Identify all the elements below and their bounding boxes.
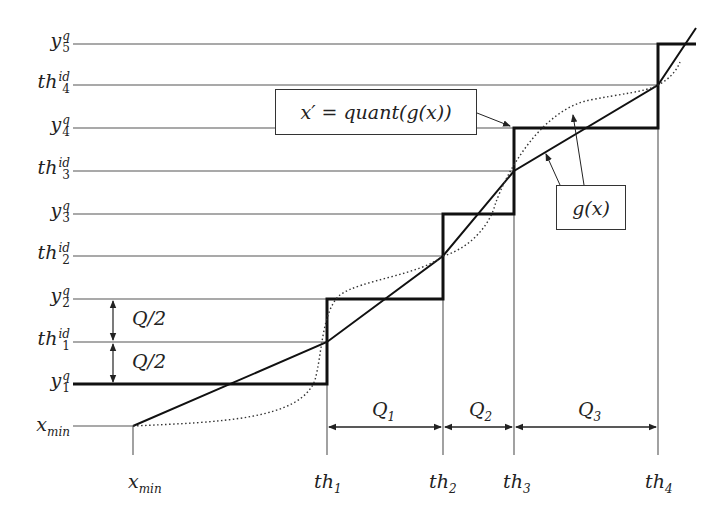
quant-callout-box: x′ = quant(g(x)) xyxy=(275,89,477,135)
y-label-y5q: yq5 xyxy=(0,30,70,54)
x-label-xmin: xmin xyxy=(128,472,162,495)
interval-label-q3: Q3 xyxy=(578,400,601,423)
half-step-label-lower: Q/2 xyxy=(132,352,166,371)
quant-callout-arrow xyxy=(477,113,510,126)
y-label-th1id: thid1 xyxy=(0,328,70,352)
g-callout-arrow-curve xyxy=(573,115,584,185)
half-step-label-upper: Q/2 xyxy=(132,309,166,328)
y-label-y3q: yq3 xyxy=(0,200,70,224)
y-label-th2id: thid2 xyxy=(0,242,70,266)
x-label-th3: th3 xyxy=(503,472,531,495)
quantization-diagram xyxy=(0,0,716,517)
y-label-y2q: yq2 xyxy=(0,285,70,309)
x-label-th1: th1 xyxy=(314,472,342,495)
y-label-th4id: thid4 xyxy=(0,71,70,95)
x-label-th2: th2 xyxy=(429,472,457,495)
y-label-y4q: yq4 xyxy=(0,114,70,138)
y-label-y1q: yq1 xyxy=(0,370,70,394)
interval-label-q1: Q1 xyxy=(372,400,395,423)
x-label-th4: th4 xyxy=(645,472,673,495)
interval-label-q2: Q2 xyxy=(469,400,492,423)
y-label-xmin: xmin xyxy=(0,415,70,438)
g-callout-arrow-line xyxy=(546,154,560,185)
g-callout-box: g(x) xyxy=(556,185,626,230)
y-label-th3id: thid3 xyxy=(0,157,70,181)
